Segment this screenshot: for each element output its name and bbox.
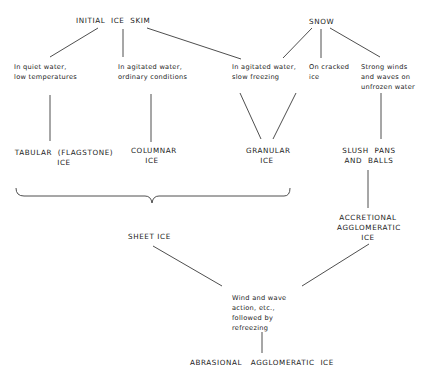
node-initial-ice-skim: INITIAL ICE SKIM <box>76 16 150 26</box>
node-sheet-ice: SHEET ICE <box>128 232 171 242</box>
edge-sheet-to-wind <box>153 246 222 286</box>
node-tabular-ice: TABULAR (FLAGSTONE) ICE <box>14 148 114 168</box>
node-abrasional-ice: ABRASIONAL AGGLOMERATIC ICE <box>190 358 334 368</box>
edge-slow-to-granular-right <box>273 93 296 139</box>
edge-slow-to-granular-left <box>240 93 261 139</box>
edge-snow-to-strong-winds <box>330 28 380 57</box>
edge-accretional-to-wind <box>302 244 369 286</box>
grouping-brace <box>16 188 290 203</box>
node-wind-wave-action: Wind and wave action, etc., followed by … <box>232 293 286 333</box>
node-slush-pans: SLUSH PANS AND BALLS <box>341 146 397 166</box>
node-cracked-ice: On cracked ice <box>309 62 349 82</box>
ice-classification-diagram: INITIAL ICE SKIM SNOW In quiet water, lo… <box>0 0 426 378</box>
node-columnar-ice: COLUMNAR ICE <box>131 146 173 166</box>
connector-lines <box>0 0 426 378</box>
node-accretional-ice: ACCRETIONAL AGGLOMERATIC ICE <box>337 213 399 243</box>
node-snow: SNOW <box>309 17 334 27</box>
edge-skim-to-quiet <box>50 28 98 57</box>
edge-skim-to-agitated-slow <box>147 28 241 59</box>
node-quiet-water: In quiet water, low temperatures <box>14 62 77 82</box>
node-strong-winds: Strong winds and waves on unfrozen water <box>361 62 415 92</box>
edge-snow-to-agitated-slow <box>283 28 312 58</box>
node-granular-ice: GRANULAR ICE <box>246 146 288 166</box>
node-agitated-ordinary: In agitated water, ordinary conditions <box>118 62 187 82</box>
node-agitated-slow: In agitated water, slow freezing <box>232 62 296 82</box>
